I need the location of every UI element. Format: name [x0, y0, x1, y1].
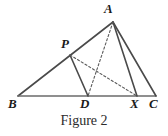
vertex-label-D: D: [80, 97, 89, 110]
figure-caption: Figure 2: [0, 113, 168, 129]
vertex-label-A: A: [104, 2, 113, 15]
vertex-label-P: P: [61, 37, 69, 50]
geometry-figure: A P B D X C Figure 2: [0, 0, 168, 136]
segment-PX-dashed: [70, 55, 137, 96]
vertex-label-C: C: [149, 97, 158, 110]
segment-BA: [18, 22, 113, 96]
segment-AX: [113, 22, 137, 96]
segment-AD-dashed: [88, 22, 113, 96]
vertex-label-B: B: [8, 97, 17, 110]
vertex-label-X: X: [130, 97, 139, 110]
